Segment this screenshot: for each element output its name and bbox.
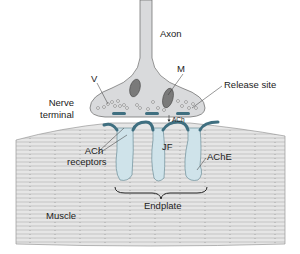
vesicle-label: V [91,73,97,84]
junctional-folds [116,128,202,181]
muscle-label: Muscle [46,210,76,221]
nerve-terminal-label-line1: Nerve [48,97,74,108]
ach-label: ACh [172,114,185,125]
release-site-label: Release site [224,79,276,90]
nerve-terminal [90,0,205,117]
junctional-fold-label: JF [162,141,173,152]
mitochondrion-label: M [177,63,185,74]
nerve-terminal-label-line2: terminal [40,109,74,120]
ache-label: AChE [207,151,232,162]
axon-label: Axon [160,28,182,39]
neuromuscular-junction-diagram [0,0,300,254]
ach-receptors-label-line1: ACh [74,145,114,156]
ach-receptors-label-line2: receptors [67,156,107,167]
endplate-label: Endplate [144,200,182,211]
muscle-fiber [10,123,290,246]
